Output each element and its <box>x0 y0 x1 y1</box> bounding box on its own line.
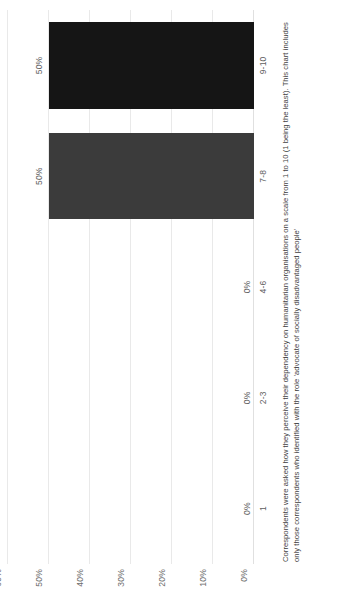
bar-9-10[interactable] <box>49 22 254 108</box>
chart-caption: Correspondents were asked how they perce… <box>280 12 302 562</box>
bar-chart-figure: 60% 50% 40% 30% 20% 10% 0% <box>0 0 349 602</box>
bar-value-label-1: 0% <box>242 502 252 515</box>
bar-slot-7-8[interactable]: 50% <box>8 121 254 232</box>
bar-value-label-2-3: 0% <box>242 391 252 404</box>
y-axis-tick-0: 0% <box>239 569 249 582</box>
x-axis: 1 2-3 4-6 7-8 9-10 <box>258 10 274 564</box>
bar-value-label-7-8: 50% <box>34 167 44 185</box>
y-axis-tick-10: 10% <box>198 569 208 587</box>
bar-slot-4-6[interactable]: 0% <box>8 232 254 343</box>
x-axis-label-7-8: 7-8 <box>258 121 274 232</box>
bar-series: 0% 0% 0% 50% 50% <box>8 10 254 564</box>
y-axis-tick-50: 50% <box>34 569 44 587</box>
bar-value-label-4-6: 0% <box>242 281 252 294</box>
y-axis-tick-20: 20% <box>157 569 167 587</box>
y-axis-tick-60: 60% <box>0 569 3 587</box>
y-axis-tick-40: 40% <box>75 569 85 587</box>
x-axis-label-2-3: 2-3 <box>258 342 274 453</box>
bar-value-label-9-10: 50% <box>34 57 44 75</box>
y-axis-tick-30: 30% <box>116 569 126 587</box>
bar-7-8[interactable] <box>49 133 254 219</box>
bar-slot-2-3[interactable]: 0% <box>8 342 254 453</box>
x-axis-label-9-10: 9-10 <box>258 10 274 121</box>
bar-slot-9-10[interactable]: 50% <box>8 10 254 121</box>
rotated-figure-container: 60% 50% 40% 30% 20% 10% 0% <box>0 0 349 602</box>
plot-area: 60% 50% 40% 30% 20% 10% 0% <box>8 10 254 564</box>
bar-slot-1[interactable]: 0% <box>8 453 254 564</box>
x-axis-label-1: 1 <box>258 453 274 564</box>
x-axis-label-4-6: 4-6 <box>258 232 274 343</box>
